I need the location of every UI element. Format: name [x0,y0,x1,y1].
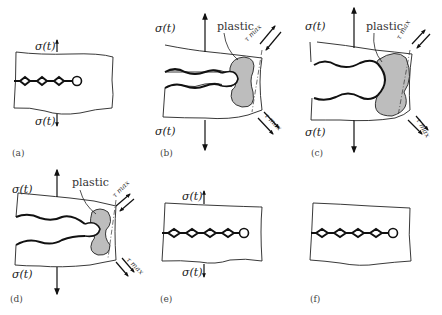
stress-top-label: σ(t) [305,20,326,33]
crack-tip [240,229,249,238]
stress-bottom-label: σ(t) [182,266,203,279]
caption-e: (e) [160,294,172,304]
caption-c: (c) [311,148,323,158]
crack-tip [85,223,100,237]
stress-bottom-label: σ(t) [12,268,33,281]
caption-f: (f) [310,294,320,304]
crack-tip [389,229,398,238]
tau-max-bottom-label: τ max [125,256,145,276]
crack-faces [16,215,85,245]
caption-a: (a) [12,148,24,158]
caption-b: (b) [160,148,173,158]
panel-b: σ(t) σ(t) plastic τ max τ max (b) [155,14,283,158]
stress-top-label: σ(t) [12,183,33,196]
plastic-leader-line [374,33,382,62]
crack-growth-diagram: σ(t) σ(t) (a) σ(t) σ(t) plastic τ max τ … [0,0,442,315]
caption-d: (d) [10,294,23,304]
shear-arrow-icon [116,262,128,276]
panel-e: σ(t) σ(t) (e) [160,190,262,304]
panel-f: (f) [310,203,411,304]
panel-c: σ(t) σ(t) plastic τ max τ max (c) [305,8,432,158]
stress-bottom-label: σ(t) [305,126,326,139]
crack [14,77,72,85]
crack-tip [222,71,238,86]
plastic-label: plastic [72,176,109,189]
crack [162,229,240,237]
panel-a: σ(t) σ(t) (a) [12,40,113,158]
stress-bottom-label: σ(t) [35,115,56,128]
stress-top-label: σ(t) [35,40,56,53]
shear-plane [252,50,262,112]
stress-bottom-label: σ(t) [155,125,176,138]
panel-d: σ(t) σ(t) plastic τ max τ max (d) [10,170,145,304]
stress-top-label: σ(t) [182,190,203,203]
crack [311,229,388,237]
stress-top-label: σ(t) [155,22,176,35]
plastic-leader-line [224,33,238,60]
crack-tip [73,77,82,86]
